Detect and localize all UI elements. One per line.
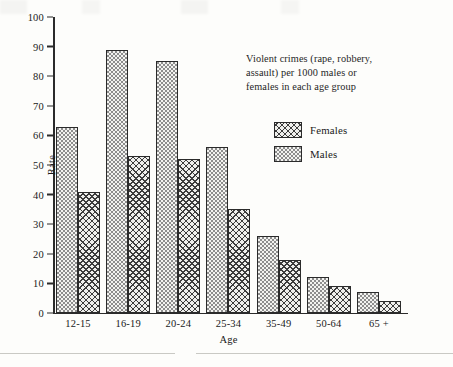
x-tick-label-20-24: 20-24: [153, 318, 203, 329]
y-tick-40: 40: [33, 189, 53, 200]
bar-females-65+: [379, 301, 401, 313]
y-tick-label: 30: [33, 219, 44, 230]
x-tick-label-65+: 65 +: [354, 318, 404, 329]
bar-group-12-15: [53, 17, 103, 313]
y-tick-20: 20: [33, 248, 53, 259]
x-tick-label-12-15: 12-15: [53, 318, 103, 329]
y-tick-100: 100: [28, 12, 53, 23]
annotation-line-3: females in each age group: [246, 80, 436, 94]
y-tick-label: 80: [33, 71, 44, 82]
y-tick-10: 10: [33, 278, 53, 289]
bar-group-16-19: [103, 17, 153, 313]
legend-label-males: Males: [310, 148, 337, 160]
x-axis-title: Age: [53, 334, 404, 345]
bar-males-65+: [357, 292, 379, 313]
chart-annotation: Violent crimes (rape, robbery, assault) …: [246, 52, 436, 95]
bar-males-12-15: [56, 127, 78, 313]
y-tick-label: 90: [33, 41, 44, 52]
bar-females-25-34: [228, 209, 250, 313]
bar-females-20-24: [178, 159, 200, 313]
y-tick-label: 20: [33, 248, 44, 259]
y-tick-60: 60: [33, 130, 53, 141]
page-rule-right: [196, 353, 453, 354]
y-tick-30: 30: [33, 219, 53, 230]
bar-males-20-24: [156, 61, 178, 313]
page-rule-left: [0, 353, 175, 354]
legend-item-males: Males: [274, 143, 347, 165]
bar-females-16-19: [128, 156, 150, 313]
y-tick-label: 100: [28, 12, 44, 23]
bar-males-35-49: [257, 236, 279, 313]
x-tick-label-25-34: 25-34: [203, 318, 253, 329]
y-tick-label: 40: [33, 189, 44, 200]
y-tick-80: 80: [33, 71, 53, 82]
y-tick-50: 50: [33, 160, 53, 171]
bar-males-16-19: [106, 50, 128, 313]
bar-males-25-34: [206, 147, 228, 313]
y-tick-label: 50: [33, 160, 44, 171]
y-tick-label: 70: [33, 100, 44, 111]
x-tick-label-35-49: 35-49: [254, 318, 304, 329]
x-axis-tick-labels: 12-1516-1920-2425-3435-4950-6465 +: [53, 318, 404, 329]
y-tick-90: 90: [33, 41, 53, 52]
bar-group-20-24: [153, 17, 203, 313]
bar-females-50-64: [329, 286, 351, 313]
scan-artifact-bottom: [0, 345, 453, 367]
legend-label-females: Females: [310, 124, 347, 136]
x-tick-label-50-64: 50-64: [304, 318, 354, 329]
y-tick-label: 60: [33, 130, 44, 141]
y-tick-label: 10: [33, 278, 44, 289]
plot-area: Rate 0102030405060708090100 Violent crim…: [53, 17, 404, 313]
x-tick-label-16-19: 16-19: [103, 318, 153, 329]
chart-figure: Rate 0102030405060708090100 Violent crim…: [0, 0, 453, 367]
scan-artifact-top: [0, 0, 453, 14]
annotation-line-1: Violent crimes (rape, robbery,: [246, 52, 436, 66]
annotation-line-2: assault) per 1000 males or: [246, 66, 436, 80]
bar-females-12-15: [78, 192, 100, 313]
y-tick-0: 0: [39, 308, 53, 319]
legend-swatch-males-icon: [274, 146, 302, 162]
y-tick-label: 0: [39, 308, 44, 319]
bar-males-50-64: [307, 277, 329, 313]
chart-legend: Females Males: [274, 119, 347, 167]
y-tick-70: 70: [33, 100, 53, 111]
legend-item-females: Females: [274, 119, 347, 141]
bar-females-35-49: [279, 260, 301, 313]
legend-swatch-females-icon: [274, 122, 302, 138]
